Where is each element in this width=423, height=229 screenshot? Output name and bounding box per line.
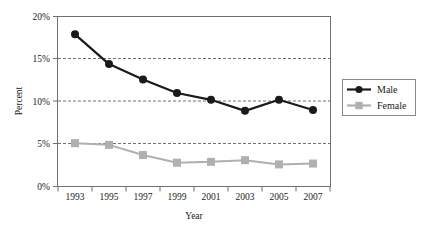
data-point-female-1997 xyxy=(139,151,147,159)
xtick-label-2001: 2001 xyxy=(202,192,221,202)
xtick-label-2005: 2005 xyxy=(270,192,289,202)
data-point-male-2003 xyxy=(241,107,249,115)
legend-label-female: Female xyxy=(377,100,407,111)
plot-area-frame xyxy=(58,17,331,187)
ytick-label-10: 10% xyxy=(33,97,51,107)
chart-legend: Male Female xyxy=(343,80,416,116)
ytick-label-5: 5% xyxy=(37,139,50,149)
xtick-label-1995: 1995 xyxy=(100,192,119,202)
data-point-male-1999 xyxy=(173,89,181,97)
data-point-female-2005 xyxy=(275,160,283,168)
ytick-label-0: 0% xyxy=(37,182,50,192)
data-point-male-2001 xyxy=(207,96,215,104)
xtick-label-2003: 2003 xyxy=(236,192,255,202)
y-axis-title: Percent xyxy=(14,86,24,115)
ytick-label-20: 20% xyxy=(33,12,51,22)
legend-label-male: Male xyxy=(377,84,398,95)
chart-canvas: 20% 15% 10% 5% 0% Percent 1993 1995 1997… xyxy=(0,0,423,229)
data-point-male-1993 xyxy=(71,30,79,38)
data-point-male-1995 xyxy=(105,60,113,68)
ytick-label-15: 15% xyxy=(33,54,51,64)
line-chart: 20% 15% 10% 5% 0% Percent 1993 1995 1997… xyxy=(0,0,423,229)
data-point-male-1997 xyxy=(139,75,147,83)
data-point-male-2005 xyxy=(275,96,283,104)
data-point-female-2003 xyxy=(241,156,249,164)
data-point-male-2007 xyxy=(309,106,317,114)
data-series-layer xyxy=(71,30,317,168)
xtick-label-1999: 1999 xyxy=(168,192,187,202)
xtick-label-1993: 1993 xyxy=(66,192,85,202)
legend-marker-female xyxy=(355,102,362,109)
legend-marker-male xyxy=(355,86,362,93)
data-point-female-2001 xyxy=(207,158,215,166)
data-point-female-1999 xyxy=(173,159,181,167)
data-point-female-2007 xyxy=(309,160,317,168)
data-point-female-1993 xyxy=(71,139,79,147)
gridlines xyxy=(58,59,330,144)
x-axis-ticks xyxy=(58,187,330,192)
x-axis-title: Year xyxy=(185,211,203,221)
data-point-female-1995 xyxy=(105,141,113,149)
xtick-label-2007: 2007 xyxy=(304,192,323,202)
series-male xyxy=(71,30,317,115)
xtick-label-1997: 1997 xyxy=(134,192,153,202)
